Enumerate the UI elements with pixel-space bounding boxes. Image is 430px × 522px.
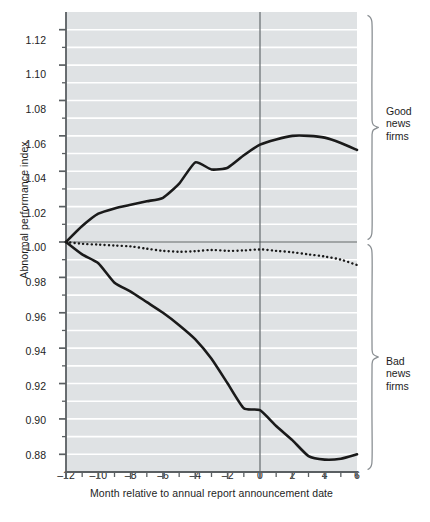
- plot-canvas: [0, 0, 430, 522]
- braces-group: [368, 16, 378, 470]
- chart-figure: Abnormal performance index Month relativ…: [0, 0, 430, 522]
- bad-news-firms-brace: [368, 245, 378, 470]
- good-news-firms-brace: [368, 16, 378, 240]
